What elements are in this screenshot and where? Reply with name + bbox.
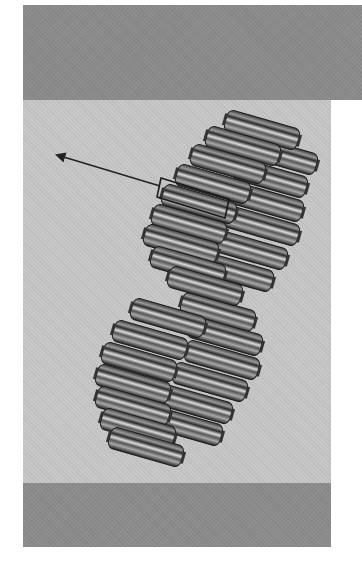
callout-arrow-icon [57, 155, 160, 186]
nucleosome-discs [92, 108, 322, 468]
chromatin-fiber-illustration [0, 0, 362, 586]
